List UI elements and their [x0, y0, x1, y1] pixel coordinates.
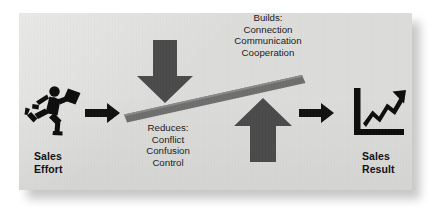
reduces-note: Reduces: Conflict Confusion Control	[122, 122, 214, 168]
diagram-canvas: Sales Effort Reduces: Conflict Confusion…	[0, 0, 437, 212]
sales-result-label: Sales Result	[362, 150, 395, 175]
sales-effort-label: Sales Effort	[34, 150, 63, 175]
running-businessman-icon	[24, 82, 86, 144]
arrow-right-icon-1	[85, 101, 121, 125]
builds-note: Builds: Connection Communication Coopera…	[212, 13, 324, 58]
rising-chart-icon	[352, 88, 408, 142]
arrow-right-icon-2	[299, 101, 335, 125]
arrow-up-block-icon	[233, 97, 293, 163]
diagram-panel: Sales Effort Reduces: Conflict Confusion…	[19, 13, 412, 190]
